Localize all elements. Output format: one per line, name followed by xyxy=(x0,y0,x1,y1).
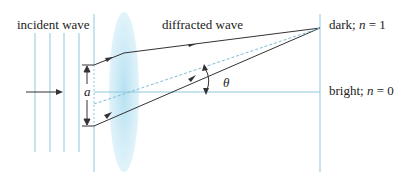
slit-width-label: a xyxy=(83,84,92,100)
single-slit-diffraction-diagram: incident wave diffracted wave dark; n = … xyxy=(0,0,411,179)
incident-wave-label: incident wave xyxy=(17,17,90,33)
dark-fringe-label: dark; n = 1 xyxy=(329,17,386,33)
bright-fringe-label: bright; n = 0 xyxy=(329,83,394,99)
diffracted-wave-label: diffracted wave xyxy=(162,17,243,33)
angle-theta-label: θ xyxy=(223,75,229,91)
